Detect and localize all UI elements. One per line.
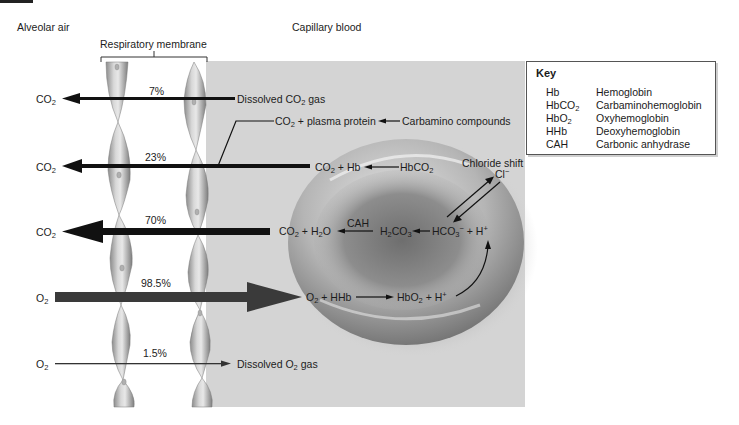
percent-o2-hemoglobin: 98.5%: [141, 277, 171, 289]
gas-exchange-diagram: Alveolar air Capillary blood Respiratory…: [0, 0, 739, 425]
dissolved-co2-gas-label: Dissolved CO2 gas: [237, 93, 325, 105]
key-legend: Key Hb Hemoglobin HbCO2 Carbaminohemoglo…: [526, 61, 716, 155]
percent-co2-carbamino: 23%: [145, 151, 166, 163]
chloride-shift-label: Chloride shift: [462, 157, 523, 169]
hbco2-label: HbCO2: [400, 161, 433, 173]
co2-h2o-label: CO2 + H2O: [279, 225, 331, 237]
hbo2-h-label: HbO2 + H+: [397, 291, 447, 303]
capillary-blood-label: Capillary blood: [292, 21, 361, 33]
co2-label-3: CO2: [36, 226, 56, 238]
carbamino-compounds-label: Carbamino compounds: [402, 115, 511, 127]
hco3-h-label: HCO3− + H+: [432, 225, 488, 237]
alveolar-air-label: Alveolar air: [17, 21, 70, 33]
o2-hhb-label: O2 + HHb: [306, 291, 351, 303]
h2co3-label: H2CO3: [380, 225, 412, 237]
dissolved-o2-gas-label: Dissolved O2 gas: [237, 358, 318, 370]
co2-hb-label: CO2 + Hb: [315, 161, 360, 173]
cah-enzyme-label: CAH: [347, 217, 369, 229]
percent-co2-dissolved: 7%: [149, 85, 164, 97]
co2-label-1: CO2: [36, 93, 56, 105]
percent-co2-bicarbonate: 70%: [145, 214, 166, 226]
key-title: Key: [536, 67, 556, 79]
o2-label-1: O2: [36, 292, 48, 304]
percent-o2-dissolved: 1.5%: [143, 347, 167, 359]
co2-label-2: CO2: [36, 161, 56, 173]
respiratory-membrane-bracket: [101, 51, 207, 62]
o2-label-2: O2: [36, 358, 48, 370]
chloride-ion-label: Cl−: [495, 168, 509, 180]
respiratory-membrane-label: Respiratory membrane: [100, 38, 207, 50]
co2-plasma-protein-label: CO2 + plasma protein: [275, 115, 376, 127]
